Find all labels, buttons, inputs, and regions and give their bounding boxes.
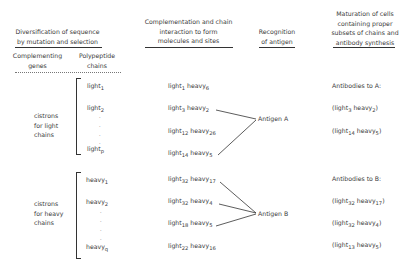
heavy-word: heavy (357, 197, 376, 204)
light-index: 32 (348, 222, 355, 228)
heavy-index: 4 (376, 222, 379, 228)
heavy-word: heavy (353, 104, 372, 111)
light-index: 13 (348, 244, 355, 250)
light-index: 32 (348, 200, 355, 206)
light-word: light (334, 127, 348, 134)
antibody-a-1: (light3 heavy2) (332, 103, 378, 114)
antibody-b-2: (light32 heavy4) (332, 218, 381, 229)
paren: ) (379, 241, 381, 248)
light-word: light (334, 104, 348, 111)
antibody-a-2: (light14 heavy5) (332, 126, 381, 137)
light-index: 14 (348, 130, 355, 136)
heavy-index: 5 (376, 130, 379, 136)
light-word: light (334, 241, 348, 248)
heavy-word: heavy (357, 241, 376, 248)
heavy-word: heavy (357, 127, 376, 134)
antigen-b: Antigen B (258, 209, 288, 219)
heavy-index: 2 (372, 107, 375, 113)
paren: ) (379, 127, 381, 134)
antibodies-b-title: Antibodies to B: (332, 174, 381, 184)
paren: ) (379, 219, 381, 226)
antibody-b-3: (light13 heavy5) (332, 240, 381, 251)
antibodies-a-title: Antibodies to A: (332, 81, 381, 91)
heavy-index: 17 (376, 200, 383, 206)
paren: ) (382, 197, 384, 204)
heavy-word: heavy (357, 219, 376, 226)
antibody-b-1: (light32 heavy17) (332, 196, 385, 207)
light-word: light (334, 219, 348, 226)
heavy-index: 5 (376, 244, 379, 250)
antigen-a: Antigen A (258, 114, 288, 124)
light-index: 3 (348, 107, 351, 113)
light-word: light (334, 197, 348, 204)
